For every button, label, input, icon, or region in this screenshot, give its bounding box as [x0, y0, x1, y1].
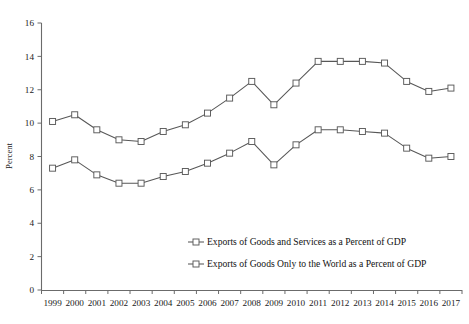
- series-1: [50, 58, 454, 144]
- data-point-marker: [94, 127, 100, 133]
- data-point-marker: [448, 85, 454, 91]
- data-point-marker: [293, 142, 299, 148]
- x-tick-label: 2007: [220, 298, 239, 308]
- data-point-marker: [182, 122, 188, 128]
- y-tick-label: 16: [25, 18, 35, 28]
- data-point-marker: [116, 180, 122, 186]
- chart-legend: Exports of Goods and Services as a Perce…: [188, 236, 426, 269]
- data-point-marker: [359, 128, 365, 134]
- data-point-marker: [448, 154, 454, 160]
- x-tick-label: 2010: [287, 298, 306, 308]
- data-point-marker: [116, 137, 122, 143]
- legend-item: Exports of Goods and Services as a Perce…: [188, 236, 406, 247]
- x-tick-label: 2013: [353, 298, 372, 308]
- data-point-marker: [204, 160, 210, 166]
- data-point-marker: [271, 162, 277, 168]
- x-tick-label: 2016: [420, 298, 439, 308]
- x-tick-label: 2001: [88, 298, 107, 308]
- y-axis-title: Percent: [4, 143, 14, 169]
- data-point-marker: [182, 169, 188, 175]
- data-point-marker: [293, 80, 299, 86]
- legend-label: Exports of Goods Only to the World as a …: [207, 258, 426, 269]
- data-point-marker: [249, 78, 255, 84]
- x-tick-label: 2005: [176, 298, 195, 308]
- x-tick-label: 2011: [309, 298, 327, 308]
- data-point-marker: [337, 127, 343, 133]
- data-point-marker: [359, 58, 365, 64]
- y-tick-label: 0: [29, 285, 34, 295]
- data-point-marker: [382, 60, 388, 66]
- x-tick-label: 2000: [66, 298, 85, 308]
- x-tick-label: 2014: [375, 298, 394, 308]
- legend-marker: [193, 261, 199, 267]
- y-tick-group: 0246810121416: [25, 18, 42, 295]
- x-tick-label: 2002: [110, 298, 129, 308]
- data-point-marker: [404, 145, 410, 151]
- data-point-marker: [227, 95, 233, 101]
- data-point-marker: [227, 150, 233, 156]
- y-tick-label: 6: [29, 185, 34, 195]
- legend-item: Exports of Goods Only to the World as a …: [188, 258, 426, 269]
- data-point-marker: [160, 174, 166, 180]
- x-tick-label: 2006: [198, 298, 217, 308]
- legend-label: Exports of Goods and Services as a Perce…: [207, 236, 406, 247]
- data-point-marker: [271, 102, 277, 108]
- data-point-marker: [50, 165, 56, 171]
- data-point-marker: [72, 112, 78, 118]
- data-point-marker: [426, 155, 432, 161]
- data-point-marker: [315, 127, 321, 133]
- x-tick-label: 2009: [265, 298, 284, 308]
- data-point-marker: [94, 172, 100, 178]
- y-tick-label: 14: [25, 52, 35, 62]
- x-tick-group: 1999200020012002200320042005200620072008…: [42, 290, 463, 308]
- x-tick-label: 2015: [397, 298, 416, 308]
- line-chart-figure: 0246810121416 19992000200120022003200420…: [0, 0, 469, 324]
- plot-area: 0246810121416 19992000200120022003200420…: [0, 0, 469, 324]
- data-point-marker: [337, 58, 343, 64]
- series-line: [53, 130, 451, 183]
- data-point-marker: [315, 58, 321, 64]
- data-point-marker: [382, 130, 388, 136]
- y-tick-label: 4: [29, 218, 34, 228]
- data-point-marker: [160, 128, 166, 134]
- data-point-marker: [138, 180, 144, 186]
- y-tick-label: 2: [29, 252, 34, 262]
- x-tick-label: 2012: [331, 298, 350, 308]
- data-point-marker: [50, 118, 56, 124]
- series-line: [53, 61, 451, 141]
- data-point-marker: [138, 138, 144, 144]
- x-tick-label: 1999: [43, 298, 62, 308]
- data-point-marker: [249, 138, 255, 144]
- x-tick-label: 2008: [243, 298, 262, 308]
- x-tick-label: 2003: [132, 298, 151, 308]
- y-tick-label: 12: [25, 85, 35, 95]
- data-point-marker: [72, 157, 78, 163]
- y-tick-label: 10: [25, 118, 35, 128]
- data-point-marker: [204, 110, 210, 116]
- legend-marker: [193, 239, 199, 245]
- series-group: [50, 58, 454, 186]
- data-point-marker: [426, 88, 432, 94]
- x-tick-label: 2017: [442, 298, 461, 308]
- data-point-marker: [404, 78, 410, 84]
- x-tick-label: 2004: [154, 298, 173, 308]
- y-tick-label: 8: [29, 152, 34, 162]
